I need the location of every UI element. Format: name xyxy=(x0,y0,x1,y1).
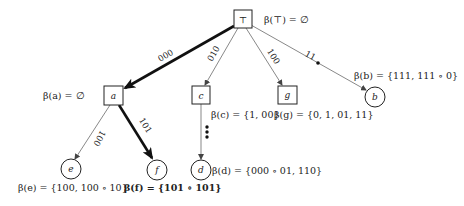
ellipsis-dot-icon xyxy=(205,130,208,133)
annotation-f: β(f) = {101 ∘ 101} xyxy=(124,182,221,193)
edge-top-a xyxy=(125,26,234,88)
edge-label-100-ae: 100 xyxy=(91,129,107,148)
node-b: b xyxy=(365,87,385,107)
edge-label-100: 100 xyxy=(265,47,282,66)
edge-dot-icon xyxy=(316,61,320,65)
node-top: ⊤ xyxy=(234,10,252,28)
ellipsis-dot-icon xyxy=(205,125,208,128)
svg-text:c: c xyxy=(198,91,203,101)
annotation-top: β(⊤) = ∅ xyxy=(264,14,309,25)
svg-text:d: d xyxy=(198,165,204,175)
annotation-g: β(g) = {0, 1, 01, 11} xyxy=(274,109,373,120)
annotation-b: β(b) = {111, 111 ∘ 0} xyxy=(354,70,458,81)
node-f: f xyxy=(147,160,167,180)
node-g: g xyxy=(278,86,297,104)
edge-label-11: 11 xyxy=(303,48,317,62)
node-c: c xyxy=(192,86,210,104)
tree-diagram: 000 010 100 11 100 101 ⊤ a c g b e f d β… xyxy=(0,0,464,206)
svg-text:g: g xyxy=(285,90,291,100)
annotation-a: β(a) = ∅ xyxy=(43,90,85,101)
edge-c-d xyxy=(201,104,209,159)
svg-text:b: b xyxy=(372,92,378,102)
annotation-d: β(d) = {000 ∘ 01, 110} xyxy=(212,165,322,176)
svg-text:⊤: ⊤ xyxy=(239,15,247,25)
ellipsis-dot-icon xyxy=(205,135,208,138)
node-a: a xyxy=(104,86,123,105)
svg-text:a: a xyxy=(111,91,116,101)
edge-label-101: 101 xyxy=(137,116,154,135)
node-d: d xyxy=(191,160,211,180)
annotation-c: β(c) = {1, 00} xyxy=(211,109,280,120)
svg-text:e: e xyxy=(68,164,73,174)
annotation-e: β(e) = {100, 100 ∘ 10} xyxy=(18,182,128,193)
node-e: e xyxy=(61,159,81,179)
